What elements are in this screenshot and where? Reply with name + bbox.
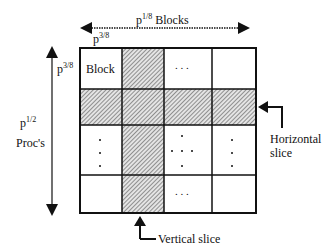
procs-exponent-label: p1/2 — [20, 117, 36, 129]
vertical-slice-arrow — [134, 216, 156, 239]
horizontal-ellipsis-row3: . . . — [175, 186, 189, 197]
procs-exponent: 1/2 — [26, 115, 36, 124]
blocks-count-text: Blocks — [155, 13, 188, 27]
procs-text-label: Proc's — [16, 137, 45, 149]
vertical-slice-column — [122, 48, 164, 213]
vertical-slice-label: Vertical slice — [158, 233, 220, 245]
vertical-ellipsis-col0 — [99, 139, 101, 167]
vertical-ellipsis-col3 — [231, 139, 233, 167]
blocks-count-exponent: 1/8 — [142, 12, 152, 21]
horizontal-ellipsis-row0: . . . — [175, 60, 189, 71]
horizontal-slice-label-line1: Horizontal — [270, 133, 321, 145]
horizontal-slice-arrow — [258, 101, 282, 128]
block-cell-label: Block — [86, 63, 115, 75]
diagram-canvas — [0, 0, 334, 251]
block-height-label: p3/8 — [57, 63, 73, 75]
horizontal-slice-row — [80, 89, 256, 125]
blocks-count-label: p1/8 Blocks — [136, 14, 189, 26]
block-width-label: p3/8 — [93, 33, 109, 45]
horizontal-slice-label-line2: slice — [270, 147, 292, 159]
diagonal-ellipsis-center — [171, 135, 193, 167]
block-height-exponent: 3/8 — [63, 61, 73, 70]
block-width-exponent: 3/8 — [99, 31, 109, 40]
